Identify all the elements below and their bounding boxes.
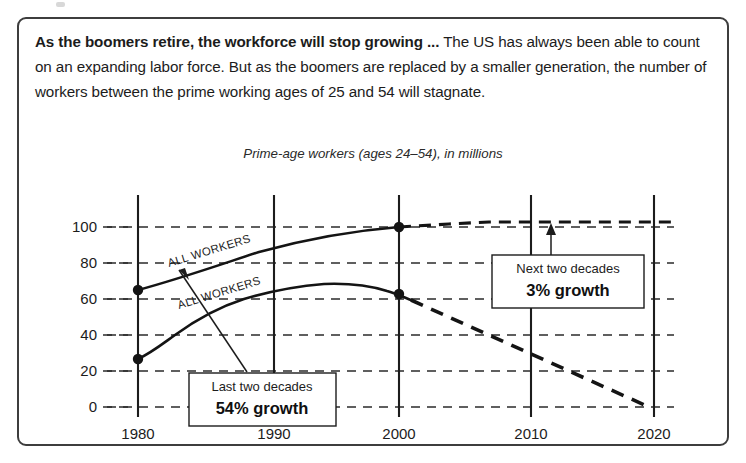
marker-all-workers-2000 [394,222,404,232]
x-tick-1980: 1980 [121,425,154,442]
y-axis-labels: 100 80 60 40 20 0 [72,218,97,415]
headline-lead: As the boomers retire, the workforce wil… [35,33,439,50]
x-axis-labels: 1980 1990 2000 2010 2020 [121,425,670,442]
x-tick-1990: 1990 [257,425,290,442]
y-tick-60: 60 [80,290,97,307]
chart-subtitle: Prime-age workers (ages 24–54), in milli… [19,146,727,161]
marker-all-workers-1980 [133,285,143,295]
annotation-right-value: 3% growth [526,281,609,299]
series-label-lower: ALL WORKERS [176,274,262,311]
annotation-next-two-decades: Next two decades 3% growth [492,223,644,308]
annotation-left-top-label: Last two decades [211,379,313,394]
annotation-right-top-label: Next two decades [516,261,620,276]
y-tick-80: 80 [80,254,97,271]
annotation-arrowhead-right [546,223,556,235]
chart-area: 100 80 60 40 20 0 1980 1990 2000 [19,167,727,442]
x-tick-2010: 2010 [514,425,547,442]
y-tick-marks [103,227,131,407]
x-tick-2020: 2020 [637,425,670,442]
infographic-card: As the boomers retire, the workforce wil… [17,17,729,446]
headline-paragraph: As the boomers retire, the workforce wil… [35,29,707,104]
series-all-workers-projection [399,222,674,227]
x-tick-2000: 2000 [382,425,415,442]
y-tick-100: 100 [72,218,97,235]
line-chart-svg: 100 80 60 40 20 0 1980 1990 2000 [19,167,727,442]
marker-prime-age-2000 [394,289,404,299]
annotation-left-value: 54% growth [216,399,309,417]
y-tick-40: 40 [80,326,97,343]
y-tick-20: 20 [80,362,97,379]
scan-artifact [56,2,65,7]
y-tick-0: 0 [89,398,97,415]
marker-prime-age-1980 [133,354,143,364]
